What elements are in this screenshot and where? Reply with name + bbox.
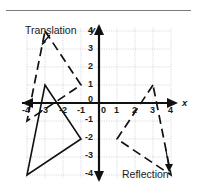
- translation-triangle: [27, 31, 81, 121]
- x-axis-label: x: [182, 97, 187, 108]
- y-tick-2: 2: [88, 61, 93, 71]
- x-tick--3: -3: [40, 105, 48, 115]
- y-tick-4: 4: [88, 25, 93, 35]
- y-tick--1: -1: [85, 114, 93, 124]
- x-tick-0: 0: [101, 105, 106, 115]
- x-tick-3: 3: [150, 105, 155, 115]
- y-tick-1: 1: [88, 79, 93, 89]
- y-tick--3: -3: [85, 150, 93, 160]
- x-tick--4: -4: [22, 105, 30, 115]
- y-tick--4: -4: [85, 168, 93, 178]
- y-tick-0: 0: [88, 94, 93, 104]
- y-axis-arrow-negative: [94, 171, 104, 182]
- y-axis-arrow-positive: [94, 24, 104, 35]
- x-tick-1: 1: [114, 105, 119, 115]
- annotation-translation: Translation: [25, 24, 77, 36]
- x-tick-4: 4: [168, 105, 173, 115]
- y-tick--2: -2: [85, 132, 93, 142]
- x-tick--1: -1: [77, 105, 85, 115]
- original-triangle: [27, 85, 81, 175]
- figure-container: Translation Reflection x y -4 -3 -2 -1 0…: [0, 0, 197, 188]
- x-tick--2: -2: [59, 105, 67, 115]
- annotation-reflection: Reflection: [122, 168, 169, 180]
- y-tick-3: 3: [88, 43, 93, 53]
- reflection-triangle: [117, 85, 171, 175]
- x-tick-2: 2: [132, 105, 137, 115]
